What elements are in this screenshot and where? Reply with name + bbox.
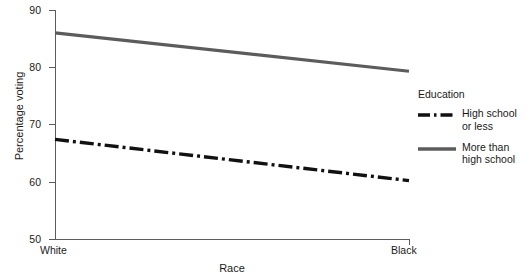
legend-swatch-solid-icon [418,142,456,156]
legend-label-more-than-high-school: More than high school [462,141,515,167]
chart-figure: 90 80 70 60 50 White Black Percentage vo… [0,0,531,280]
y-axis-title: Percentage voting [13,46,25,186]
legend-label-line2: or less [462,120,517,133]
x-tick-label-white: White [40,245,67,256]
y-tick-label-50-wrap: 50 [13,239,41,240]
y-tick-mark-60 [49,182,55,183]
legend-label-line2: high school [462,153,515,166]
legend-swatch-dashdot-icon [418,108,456,122]
y-axis-line [55,10,56,240]
y-tick-mark-50 [49,239,55,240]
y-tick-mark-70 [49,124,55,125]
legend-label-line1: More than [462,141,515,154]
legend-entry-more-than-high-school: More than high school [418,141,531,167]
legend: Education High school or less More than … [418,88,531,174]
x-axis-title: Race [55,262,409,274]
y-tick-label-90: 90 [13,5,41,16]
x-tick-label-black: Black [391,245,417,256]
y-tick-mark-90 [49,10,55,11]
series-line-more-than-high-school [55,33,409,71]
legend-entry-high-school-or-less: High school or less [418,107,531,133]
legend-label-line1: High school [462,107,517,120]
x-axis-start-tick [55,233,56,239]
y-tick-mark-80 [49,67,55,68]
y-tick-label-90-wrap: 90 [13,10,41,11]
legend-label-high-school-or-less: High school or less [462,107,517,133]
legend-title: Education [418,88,531,100]
x-axis-line [55,239,409,240]
y-tick-label-50: 50 [13,234,41,245]
series-line-high-school-or-less [55,139,409,180]
